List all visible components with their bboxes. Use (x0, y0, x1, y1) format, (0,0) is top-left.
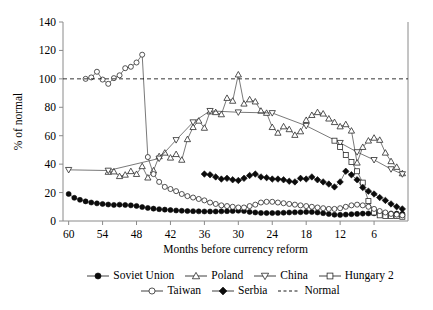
marker-open-circle (383, 210, 388, 215)
marker-open-circle (281, 201, 286, 206)
legend-row-1: Soviet UnionPolandChinaHungary 2 (60, 268, 420, 283)
legend-marker-open-square (318, 270, 342, 282)
marker-open-circle (202, 198, 207, 203)
marker-filled-circle (338, 212, 343, 217)
marker-filled-circle (66, 191, 71, 196)
legend-marker-open-triangle-down (253, 270, 277, 282)
y-tick-label: 60 (45, 130, 57, 142)
marker-filled-circle (111, 202, 116, 207)
marker-filled-circle (179, 208, 184, 213)
x-tick-label: 6 (371, 228, 377, 240)
marker-open-circle (157, 179, 162, 184)
marker-filled-circle (213, 209, 218, 214)
y-tick-label: 120 (39, 44, 57, 56)
marker-open-circle (145, 155, 150, 160)
marker-open-triangle-down (354, 150, 360, 156)
marker-open-circle (389, 211, 394, 216)
series-taiwan (83, 52, 405, 218)
marker-filled-circle (157, 207, 162, 212)
marker-filled-diamond (229, 177, 235, 183)
marker-open-triangle-up (247, 96, 253, 102)
marker-filled-circle (174, 208, 179, 213)
marker-open-circle (230, 204, 235, 209)
marker-filled-circle (270, 211, 275, 216)
marker-filled-diamond (388, 201, 394, 207)
marker-open-circle (179, 191, 184, 196)
marker-open-circle (309, 204, 314, 209)
marker-filled-circle (185, 209, 190, 214)
marker-open-circle (168, 186, 173, 191)
marker-open-circle (134, 60, 139, 65)
marker-open-triangle-up (297, 128, 303, 134)
x-tick-label: 36 (199, 228, 211, 240)
marker-filled-circle (360, 211, 365, 216)
marker-filled-circle (281, 210, 286, 215)
marker-open-triangle-up (128, 168, 134, 174)
marker-open-circle (94, 69, 99, 74)
x-tick-label: 48 (131, 228, 143, 240)
legend-item-poland[interactable]: Poland (184, 268, 243, 283)
marker-filled-circle (208, 209, 213, 214)
y-tick-label: 100 (39, 73, 57, 85)
legend-marker-dashed-line (277, 285, 301, 297)
legend-item-hungary-2[interactable]: Hungary 2 (318, 268, 394, 283)
marker-filled-circle (202, 209, 207, 214)
x-tick-label: 42 (165, 228, 177, 240)
legend-item-taiwan[interactable]: Taiwan (140, 283, 201, 298)
marker-open-circle (343, 204, 348, 209)
marker-open-triangle-up (122, 172, 128, 178)
marker-filled-circle (140, 205, 145, 210)
legend-marker-open-circle (140, 285, 164, 297)
legend-item-china[interactable]: China (253, 268, 307, 283)
marker-open-triangle-up (331, 119, 337, 125)
marker-open-circle (149, 287, 155, 293)
marker-filled-circle (219, 209, 224, 214)
marker-open-circle (292, 202, 297, 207)
legend-item-soviet-union[interactable]: Soviet Union (86, 268, 174, 283)
marker-filled-circle (72, 195, 77, 200)
marker-open-circle (372, 206, 377, 211)
x-tick-label: 24 (267, 228, 279, 240)
marker-filled-diamond (258, 174, 264, 180)
legend-label: Soviet Union (112, 268, 174, 283)
marker-filled-circle (366, 211, 371, 216)
marker-filled-circle (355, 211, 360, 216)
marker-open-circle (400, 213, 405, 218)
marker-filled-circle (95, 272, 101, 278)
marker-open-circle (247, 204, 252, 209)
marker-open-circle (140, 52, 145, 57)
marker-open-circle (338, 206, 343, 211)
legend-item-normal[interactable]: Normal (277, 283, 339, 298)
marker-open-triangle-up (371, 135, 377, 141)
marker-filled-circle (224, 209, 229, 214)
marker-filled-circle (106, 202, 111, 207)
legend-marker-open-triangle-up (184, 270, 208, 282)
legend-item-serbia[interactable]: Serbia (211, 283, 267, 298)
marker-filled-diamond (219, 287, 227, 295)
marker-filled-diamond (371, 191, 377, 197)
series-line (204, 171, 402, 209)
marker-open-circle (332, 206, 337, 211)
marker-open-circle (208, 200, 213, 205)
marker-filled-circle (349, 212, 354, 217)
marker-open-triangle-up (337, 123, 343, 129)
marker-filled-diamond (376, 194, 382, 200)
marker-filled-circle (151, 206, 156, 211)
marker-open-circle (258, 200, 263, 205)
y-tick-label: 80 (45, 101, 57, 113)
legend-marker-filled-diamond (211, 285, 235, 297)
marker-open-circle (275, 200, 280, 205)
marker-filled-diamond (343, 168, 349, 174)
marker-open-circle (394, 212, 399, 217)
marker-open-triangle-down (371, 158, 377, 164)
marker-open-triangle-up (354, 160, 360, 166)
marker-filled-diamond (280, 177, 286, 183)
marker-filled-circle (315, 210, 320, 215)
marker-filled-circle (343, 212, 348, 217)
marker-filled-diamond (297, 175, 303, 181)
marker-open-circle (304, 204, 309, 209)
chart-figure: 0204060801001201406054484236302418126Mon… (0, 0, 433, 310)
marker-filled-circle (321, 211, 326, 216)
marker-open-square (327, 273, 333, 279)
marker-open-triangle-down (303, 123, 309, 129)
